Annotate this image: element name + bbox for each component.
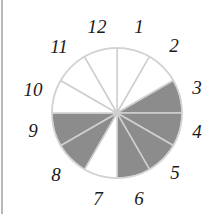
numeral-2: 2 — [169, 35, 179, 56]
numeral-4: 4 — [192, 121, 202, 142]
numeral-6: 6 — [134, 188, 144, 209]
numeral-11: 11 — [50, 36, 68, 57]
numeral-3: 3 — [191, 77, 202, 98]
numeral-12: 12 — [88, 16, 108, 37]
numeral-1: 1 — [134, 16, 144, 37]
numeral-9: 9 — [28, 120, 38, 141]
numeral-8: 8 — [51, 164, 61, 185]
numeral-10: 10 — [24, 79, 44, 100]
numeral-7: 7 — [93, 188, 104, 209]
fraction-clock-diagram: 121234567891011 — [0, 0, 224, 218]
numeral-5: 5 — [170, 162, 180, 183]
